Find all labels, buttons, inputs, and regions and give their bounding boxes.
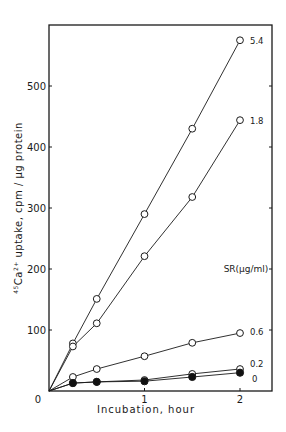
series-label: 5.4 <box>250 36 264 46</box>
legend-title: SR(µg/ml) <box>224 264 269 274</box>
ylabel-mass: 45 <box>12 285 19 294</box>
data-point <box>236 369 243 376</box>
x-axis-label: Incubation, hour <box>97 404 195 415</box>
y-tick-label: 200 <box>27 264 46 275</box>
series-markers <box>69 37 243 387</box>
data-point <box>189 125 196 132</box>
y-tick-label: 0 <box>35 394 41 405</box>
data-point <box>93 366 100 373</box>
data-point <box>141 211 148 218</box>
data-point <box>237 37 244 44</box>
y-tick-label: 500 <box>27 81 46 92</box>
series-label: 0.6 <box>250 327 264 337</box>
axis-ticks: 010020030040050012 <box>27 81 272 405</box>
y-tick-label: 300 <box>27 203 46 214</box>
data-point <box>189 339 196 346</box>
series-label: 1.8 <box>250 116 264 126</box>
y-axis-label: 45Ca2+ uptake, cpm / µg protein <box>12 122 24 294</box>
data-point <box>141 378 148 385</box>
y-tick-label: 400 <box>27 142 46 153</box>
series-labels: 5.41.80.60.20 <box>250 36 264 383</box>
data-point <box>189 373 196 380</box>
data-point <box>69 343 76 350</box>
ylabel-rest: uptake, cpm / µg protein <box>13 122 24 261</box>
data-point <box>69 379 76 386</box>
y-tick-label: 100 <box>27 325 46 336</box>
ylabel-charge: 2+ <box>12 261 19 271</box>
data-point <box>93 378 100 385</box>
data-point <box>141 253 148 260</box>
series-label: 0 <box>252 374 257 384</box>
series-label: 0.2 <box>250 359 264 369</box>
data-point <box>93 320 100 327</box>
data-point <box>237 117 244 124</box>
data-point <box>141 353 148 360</box>
x-tick-label: 2 <box>237 394 243 405</box>
ylabel-element: Ca <box>13 271 24 285</box>
data-point <box>93 295 100 302</box>
data-point <box>237 330 244 337</box>
chart: 010020030040050012 5.41.80.60.20 SR(µg/m… <box>0 0 286 432</box>
data-point <box>189 194 196 201</box>
